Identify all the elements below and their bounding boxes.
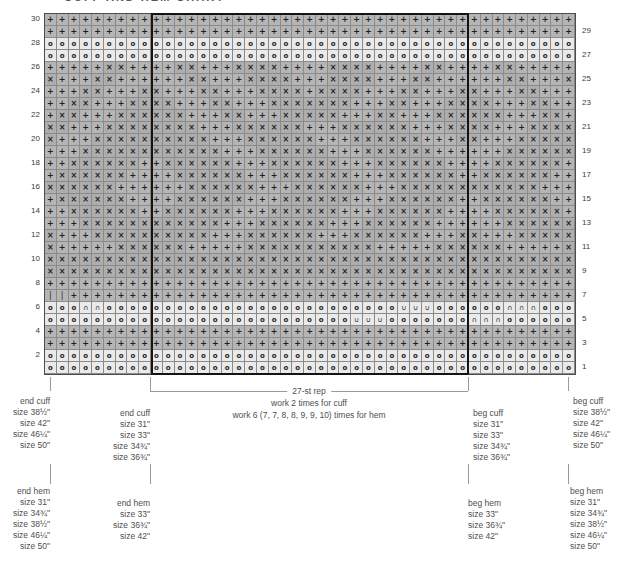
- chart-cell: o: [151, 302, 163, 314]
- chart-cell: +: [104, 326, 116, 338]
- chart-cell: +: [210, 134, 222, 146]
- row-number-left: 14: [22, 205, 40, 217]
- chart-cell: ×: [493, 194, 505, 206]
- chart-cell: +: [563, 14, 575, 26]
- chart-cell: ×: [80, 206, 92, 218]
- chart-cell: ×: [186, 74, 198, 86]
- chart-cell: +: [410, 338, 422, 350]
- chart-cell: +: [398, 338, 410, 350]
- size-label: beg cuff: [573, 396, 610, 407]
- chart-cell: +: [398, 62, 410, 74]
- chart-cell: o: [563, 302, 575, 314]
- chart-cell: ×: [469, 134, 481, 146]
- chart-cell: ×: [339, 170, 351, 182]
- chart-cell: o: [292, 50, 304, 62]
- chart-cell: +: [551, 242, 563, 254]
- chart-cell: +: [139, 170, 151, 182]
- chart-cell: ×: [457, 98, 469, 110]
- chart-cell: ×: [210, 254, 222, 266]
- chart-cell: o: [257, 302, 269, 314]
- chart-cell: ×: [233, 122, 245, 134]
- chart-cell: o: [175, 314, 187, 326]
- chart-cell: ×: [410, 158, 422, 170]
- chart-cell: o: [127, 362, 139, 374]
- chart-cell: o: [516, 362, 528, 374]
- chart-cell: +: [57, 278, 69, 290]
- chart-cell: o: [139, 50, 151, 62]
- chart-cell: +: [281, 62, 293, 74]
- chart-cell: +: [398, 326, 410, 338]
- chart-cell: o: [316, 50, 328, 62]
- chart-cell: +: [410, 290, 422, 302]
- chart-cell: ×: [116, 170, 128, 182]
- chart-cell: ×: [281, 86, 293, 98]
- chart-cell: o: [363, 350, 375, 362]
- hem-repeat-instruction: work 6 (7, 7, 8, 8, 9, 9, 10) times for …: [232, 410, 385, 420]
- chart-cell: +: [186, 14, 198, 26]
- chart-cell: ×: [116, 134, 128, 146]
- chart-cell: ×: [257, 242, 269, 254]
- chart-cell: +: [198, 242, 210, 254]
- chart-cell: ×: [163, 146, 175, 158]
- chart-cell: o: [551, 50, 563, 62]
- chart-cell: ×: [457, 242, 469, 254]
- chart-cell: ×: [151, 218, 163, 230]
- chart-cell: o: [257, 362, 269, 374]
- chart-cell: o: [316, 314, 328, 326]
- chart-cell: +: [233, 146, 245, 158]
- chart-cell: +: [69, 338, 81, 350]
- chart-cell: ×: [104, 218, 116, 230]
- chart-cell: +: [222, 290, 234, 302]
- chart-cell: +: [127, 86, 139, 98]
- chart-cell: +: [398, 14, 410, 26]
- chart-cell: ×: [104, 134, 116, 146]
- chart-cell: ×: [304, 206, 316, 218]
- chart-cell: +: [493, 218, 505, 230]
- chart-cell: +: [245, 290, 257, 302]
- chart-cell: ×: [281, 74, 293, 86]
- chart-cell: +: [104, 98, 116, 110]
- chart-cell: +: [139, 206, 151, 218]
- chart-cell: ×: [69, 254, 81, 266]
- size-boundary-tick: [50, 377, 51, 391]
- chart-cell: ×: [551, 110, 563, 122]
- chart-cell: ×: [445, 254, 457, 266]
- chart-cell: ×: [45, 74, 57, 86]
- chart-cell: o: [116, 302, 128, 314]
- chart-cell: +: [493, 86, 505, 98]
- chart-cell: +: [504, 290, 516, 302]
- chart-cell: +: [551, 194, 563, 206]
- chart-cell: +: [540, 278, 552, 290]
- chart-cell: ×: [540, 122, 552, 134]
- chart-cell: o: [328, 350, 340, 362]
- chart-cell: +: [269, 26, 281, 38]
- chart-cell: +: [139, 26, 151, 38]
- chart-cell: o: [328, 38, 340, 50]
- chart-cell: +: [445, 14, 457, 26]
- chart-cell: +: [516, 14, 528, 26]
- chart-cell: ×: [434, 158, 446, 170]
- chart-cell: o: [175, 362, 187, 374]
- chart-cell: ×: [57, 170, 69, 182]
- chart-cell: o: [69, 362, 81, 374]
- chart-cell: +: [398, 26, 410, 38]
- chart-cell: ×: [104, 230, 116, 242]
- chart-cell: ×: [563, 74, 575, 86]
- chart-cell: ×: [516, 194, 528, 206]
- chart-cell: o: [269, 314, 281, 326]
- chart-cell: ×: [210, 158, 222, 170]
- chart-cell: +: [375, 326, 387, 338]
- chart-cell: ×: [175, 146, 187, 158]
- chart-cell: o: [375, 362, 387, 374]
- chart-cell: +: [493, 230, 505, 242]
- chart-cell: +: [363, 110, 375, 122]
- chart-cell: +: [233, 26, 245, 38]
- chart-cell: +: [328, 218, 340, 230]
- chart-cell: o: [351, 362, 363, 374]
- chart-cell: o: [116, 350, 128, 362]
- row-number-right: 21: [582, 121, 600, 133]
- chart-cell: ×: [151, 146, 163, 158]
- chart-cell: o: [375, 50, 387, 62]
- chart-cell: ×: [540, 110, 552, 122]
- chart-cell: o: [410, 362, 422, 374]
